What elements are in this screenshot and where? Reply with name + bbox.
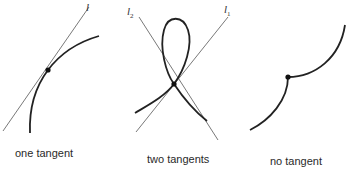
- upper-curve-branch: [288, 25, 345, 77]
- tangent-point: [171, 81, 176, 86]
- lower-curve-branch: [250, 77, 288, 130]
- smooth-curve: [30, 36, 99, 133]
- panel-two-tangents: l2 l1: [127, 3, 231, 140]
- panel-one-tangent: l: [3, 1, 99, 133]
- caption-no-tangent: no tangent: [270, 155, 322, 167]
- line-label-l2: l2: [127, 5, 134, 20]
- line-label-l: l: [86, 1, 89, 13]
- tangent-point: [45, 67, 50, 72]
- panel-no-tangent: [250, 25, 345, 130]
- line-label-l1: l1: [224, 3, 231, 18]
- caption-two-tangents: two tangents: [147, 153, 209, 165]
- corner-point: [285, 74, 290, 79]
- caption-one-tangent: one tangent: [15, 147, 73, 159]
